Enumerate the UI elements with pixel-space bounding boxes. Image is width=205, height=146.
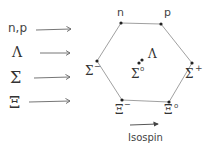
label-n: n: [117, 6, 124, 19]
label-xi-minus: Ξ −: [115, 100, 131, 117]
isospin-arrow: [130, 124, 158, 125]
label-lambda: Λ: [147, 47, 157, 61]
label-sigma-plus: Σ +: [185, 63, 203, 81]
svg-text:Σ: Σ: [10, 68, 21, 87]
svg-text:Σ: Σ: [85, 64, 93, 78]
lambda-dot: [140, 58, 143, 61]
isospin-label: Isospin: [128, 132, 163, 143]
row-label-lambda: Λ: [11, 44, 23, 60]
arrow-sigma: [34, 77, 70, 78]
row-label-sigma: Σ: [10, 68, 21, 87]
baryon-octet-diagram: n,p Λ Σ Ξ n p Σ − Σ o Λ Σ + Ξ − Ξ o: [0, 0, 205, 146]
row-label-xi: Ξ: [9, 93, 20, 112]
svg-text:−: −: [124, 100, 131, 109]
svg-text:Λ: Λ: [11, 44, 23, 60]
svg-text:+: +: [195, 63, 203, 73]
svg-text:o: o: [140, 65, 144, 73]
label-sigma-minus: Σ −: [85, 62, 101, 78]
octet-hexagon: [97, 23, 192, 102]
svg-text:Σ: Σ: [185, 67, 193, 81]
arrow-nucleons: [36, 29, 71, 30]
svg-text:Ξ: Ξ: [115, 103, 123, 117]
label-xi-zero: Ξ o: [164, 102, 178, 117]
arrow-xi: [29, 101, 70, 102]
svg-text:Ξ: Ξ: [164, 103, 172, 117]
row-label-nucleons: n,p: [8, 21, 27, 35]
svg-text:−: −: [94, 62, 101, 71]
sigma-plus-dot: [190, 61, 193, 64]
svg-text:o: o: [174, 102, 178, 110]
p-dot: [159, 22, 162, 25]
label-sigma-zero: Σ o: [131, 65, 144, 81]
label-p: p: [164, 6, 171, 19]
svg-text:n,p: n,p: [8, 21, 27, 35]
n-dot: [119, 21, 122, 24]
svg-text:Ξ: Ξ: [9, 93, 20, 112]
svg-text:Σ: Σ: [131, 67, 139, 81]
